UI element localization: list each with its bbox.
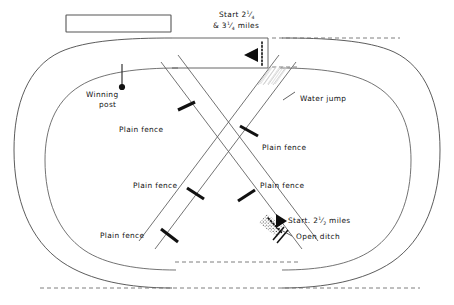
- plain-fence-label-mid-left: Plain fence: [133, 181, 178, 190]
- racecourse-diagram: Start 21⁄4 & 31⁄4 miles Winning post Wat…: [0, 0, 454, 305]
- start-top-label-line2-prefix: & 3: [213, 21, 227, 30]
- plain-fence-label-mid-right: Plain fence: [260, 181, 305, 190]
- grandstand-rectangle: [66, 15, 171, 32]
- open-ditch-label: Open ditch: [296, 232, 340, 241]
- winning-post-label-line2: post: [99, 100, 116, 109]
- start-lower-label: Start. 21⁄2 miles: [288, 216, 351, 226]
- winning-post-marker: [119, 64, 125, 90]
- label-leader-lines: [281, 92, 295, 236]
- winning-post-label-line1: Winning: [86, 90, 118, 99]
- start-arrow-top: [244, 42, 262, 66]
- plain-fence-label-upper-left: Plain fence: [119, 125, 164, 134]
- winning-post-dot: [119, 84, 125, 90]
- open-ditch-obstacle: [259, 214, 288, 243]
- winning-post-label: Winning post: [86, 90, 118, 109]
- plain-fence-label-lower-left: Plain fence: [100, 231, 145, 240]
- plain-fence-bar-mid-right: [238, 190, 255, 201]
- plain-fence-bar-lower-left: [161, 229, 178, 242]
- svg-text:Start. 21⁄2 miles: Start. 21⁄2 miles: [288, 216, 351, 226]
- svg-text:& 31⁄4 miles: & 31⁄4 miles: [213, 21, 259, 31]
- start-top-label-line1: Start 2: [219, 10, 247, 19]
- track-outer-rail: [14, 38, 440, 288]
- plain-fence-bar-upper-left: [178, 102, 195, 110]
- start-lower-label-suffix: miles: [326, 216, 350, 225]
- plain-fence-label-upper-right: Plain fence: [262, 143, 307, 152]
- dashed-guide-lines: [40, 38, 420, 288]
- plain-fence-bar-mid-left: [187, 188, 204, 199]
- course-svg-canvas: Start 21⁄4 & 31⁄4 miles Winning post Wat…: [0, 0, 454, 305]
- start-top-label: Start 21⁄4 & 31⁄4 miles: [213, 10, 259, 31]
- plain-fence-bar-upper-right: [240, 126, 258, 136]
- start-top-frac1-denominator: 4: [251, 15, 254, 20]
- start-arrow-left-icon: [244, 48, 258, 62]
- water-jump-label: Water jump: [300, 94, 346, 103]
- water-jump-obstacle: [258, 66, 289, 85]
- start-lower-label-prefix: Start. 2: [288, 216, 318, 225]
- start-top-label-line2-suffix: miles: [235, 21, 259, 30]
- svg-text:Start 21⁄4: Start 21⁄4: [219, 10, 255, 20]
